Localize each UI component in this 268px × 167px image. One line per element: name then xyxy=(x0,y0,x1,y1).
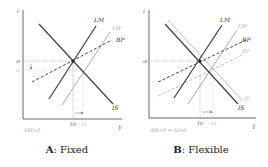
bp-label: BP xyxy=(115,36,125,43)
bp-label: BP xyxy=(241,36,251,43)
y-axis-label: i xyxy=(17,7,19,14)
lm-prime-label: LM' xyxy=(111,25,122,31)
panel-flexible: i Y LM LM' BP BP' IS' IS i0 Y0 Y1 ΔM>0 ⇒… xyxy=(134,0,268,167)
panel-caption: A: Fixed xyxy=(0,144,134,155)
i0-label: i0 xyxy=(143,59,147,64)
x-axis-label: Y xyxy=(252,123,257,130)
is-lm-bp-fixed-diagram: i Y LM LM' BP IS i0 i1 Y0 Y1 xyxy=(0,0,134,167)
is-label: IS xyxy=(237,104,244,111)
y0-label: Y0 xyxy=(70,122,76,127)
i0-label: i0 xyxy=(16,59,20,64)
panel-fixed: i Y LM LM' BP IS i0 i1 Y0 Y1 ΔM>0 A: Fix… xyxy=(0,0,134,167)
panel-letter: B xyxy=(173,144,181,155)
lm-prime-label: LM' xyxy=(237,23,248,29)
x-axis-label: Y xyxy=(118,124,123,131)
is-lm-bp-flexible-diagram: i Y LM LM' BP BP' IS' IS i0 Y0 Y1 xyxy=(134,0,268,167)
is-prime-label: IS' xyxy=(243,95,251,101)
lm-label: LM xyxy=(93,16,105,23)
y1-label: Y1 xyxy=(211,121,217,126)
panel-letter: A xyxy=(46,144,54,155)
panel-title: : Flexible xyxy=(182,144,229,155)
lm-label: LM xyxy=(219,16,231,23)
is-label: IS xyxy=(111,104,118,111)
y1-label: Y1 xyxy=(81,122,87,127)
panel-caption: B: Flexible xyxy=(134,144,268,155)
bp-prime-label: BP' xyxy=(241,48,250,54)
panel-title: : Fixed xyxy=(54,144,89,155)
y-axis-label: i xyxy=(143,7,145,14)
policy-note: ΔM>0 ⇒ ΔI>0 xyxy=(150,127,186,133)
i1-label: i1 xyxy=(16,68,20,73)
policy-note: ΔM>0 xyxy=(24,127,40,133)
y0-label: Y0 xyxy=(197,121,203,126)
